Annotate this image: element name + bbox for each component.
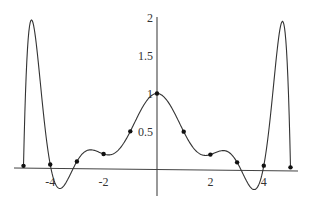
node-point: [21, 164, 25, 168]
node-point: [288, 165, 292, 169]
node-point: [48, 162, 52, 166]
node-point: [235, 160, 239, 164]
y-tick-label: 0.5: [138, 125, 153, 139]
node-point: [262, 163, 266, 167]
x-axis: [14, 168, 298, 171]
node-point: [75, 159, 79, 163]
node-point: [155, 91, 159, 95]
axes: [14, 17, 298, 196]
x-tick-label: -4: [45, 175, 55, 189]
chart-canvas: -4-224 0.511.52: [0, 0, 312, 204]
x-tick-labels: -4-224: [45, 175, 267, 189]
x-tick-label: 2: [207, 175, 213, 189]
node-point: [101, 152, 105, 156]
y-tick-labels: 0.511.52: [138, 11, 153, 139]
node-point: [182, 129, 186, 133]
node-point: [128, 129, 132, 133]
node-point: [208, 152, 212, 156]
x-tick-label: -2: [99, 175, 109, 189]
y-tick-label: 2: [147, 11, 153, 25]
y-tick-label: 1.5: [138, 49, 153, 63]
